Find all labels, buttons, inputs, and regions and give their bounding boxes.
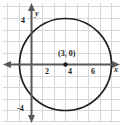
x-axis-label: x (114, 66, 118, 74)
y-axis-label: y (35, 10, 39, 18)
y-tick-label-negative-4: -4 (17, 105, 24, 113)
circle-graph-figure: 2 4 6 4 -4 x y (3, 0) (0, 0, 123, 125)
center-point-label: (3, 0) (58, 50, 75, 58)
y-axis (28, 3, 35, 123)
x-tick-label-6: 6 (91, 68, 95, 76)
y-tick-label-4: 4 (21, 17, 25, 25)
x-tick-label-4: 4 (68, 68, 72, 76)
x-tick-label-2: 2 (45, 68, 49, 76)
x-axis (3, 61, 120, 68)
